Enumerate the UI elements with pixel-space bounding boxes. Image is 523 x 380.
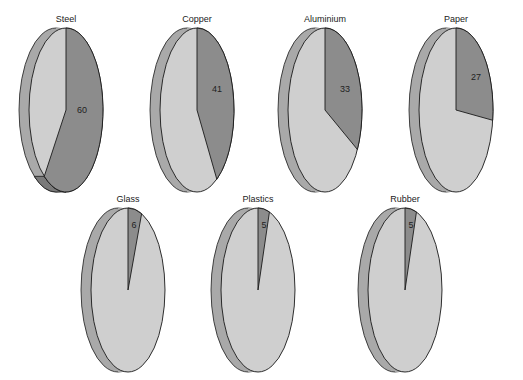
pie-value: 33 bbox=[340, 84, 350, 94]
pie-value: 5 bbox=[408, 220, 413, 230]
pie-plastics: Plastics5 bbox=[211, 194, 295, 372]
pie-label: Copper bbox=[182, 14, 212, 24]
pie-value: 6 bbox=[131, 220, 136, 230]
pie-paper: Paper27 bbox=[409, 14, 493, 192]
pie-value: 41 bbox=[212, 84, 222, 94]
pie-value: 27 bbox=[471, 72, 481, 82]
pie-value: 60 bbox=[77, 105, 87, 115]
pie-label: Aluminium bbox=[304, 14, 346, 24]
pie-chart-grid: Steel60Copper41Aluminium33Paper27Glass6P… bbox=[0, 0, 523, 380]
pie-rubber: Rubber5 bbox=[358, 194, 442, 372]
pie-value: 5 bbox=[261, 220, 266, 230]
pie-label: Glass bbox=[116, 194, 140, 204]
pie-aluminium: Aluminium33 bbox=[278, 14, 362, 192]
pie-label: Rubber bbox=[390, 194, 420, 204]
pie-copper: Copper41 bbox=[150, 14, 234, 192]
pie-label: Steel bbox=[56, 14, 77, 24]
pie-label: Plastics bbox=[242, 194, 274, 204]
pie-label: Paper bbox=[444, 14, 468, 24]
pie-glass: Glass6 bbox=[81, 194, 165, 372]
pie-steel: Steel60 bbox=[19, 14, 103, 192]
